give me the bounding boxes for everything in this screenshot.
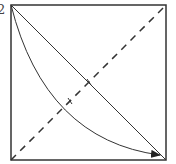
diagram-canvas xyxy=(0,0,176,164)
